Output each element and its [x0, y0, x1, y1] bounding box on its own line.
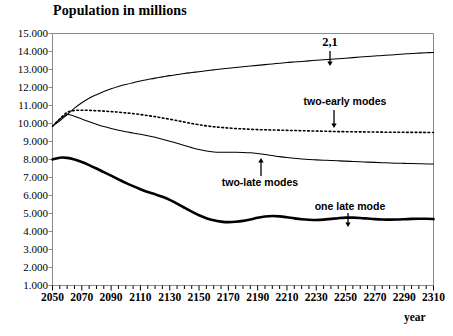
- y-tick-label: 12.000: [4, 82, 48, 93]
- y-tick-label: 11.000: [4, 100, 48, 111]
- x-axis-title: year: [404, 312, 426, 324]
- y-tick-label: 3.000: [4, 244, 48, 255]
- y-tick-label: 10.000: [4, 118, 48, 129]
- annotation-label-two-late-modes: two-late modes: [190, 177, 330, 188]
- y-tick-label: 9.000: [4, 136, 48, 147]
- chart-canvas: [0, 0, 453, 336]
- arrow-two-late-modes: [258, 158, 263, 176]
- y-tick-label: 7.000: [4, 172, 48, 183]
- y-tick-label: 15.000: [4, 28, 48, 39]
- population-projection-chart: Population in millions 15.00014.00013.00…: [0, 0, 453, 336]
- series-line-2: [53, 114, 434, 164]
- y-tick-label: 13.000: [4, 64, 48, 75]
- series-lines: [53, 52, 434, 222]
- arrow-two-early-modes: [331, 110, 336, 128]
- y-tick-label: 14.000: [4, 46, 48, 57]
- x-tick-label: 2310: [414, 292, 453, 304]
- y-tick-label: 2.000: [4, 262, 48, 273]
- chart-title: Population in millions: [53, 4, 187, 18]
- y-tick-label: 5.000: [4, 208, 48, 219]
- y-tick-label: 8.000: [4, 154, 48, 165]
- y-tick-label: 1.000: [4, 280, 48, 291]
- annotation-label-2-1: 2,1: [300, 36, 360, 49]
- arrow-one-late-mode: [345, 213, 350, 227]
- annotation-label-one-late-mode: one late mode: [290, 201, 410, 212]
- series-line-0: [53, 52, 434, 126]
- arrow-2-1: [327, 51, 332, 66]
- series-line-3: [53, 158, 434, 223]
- y-tick-label: 4.000: [4, 226, 48, 237]
- annotation-label-two-early-modes: two-early modes: [275, 96, 415, 107]
- series-line-1: [53, 110, 434, 132]
- y-tick-label: 6.000: [4, 190, 48, 201]
